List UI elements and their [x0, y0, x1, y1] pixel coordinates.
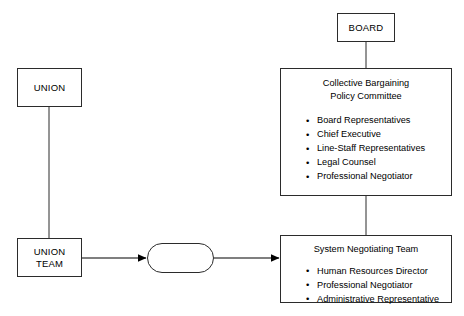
negotiating-team-member-list: Human Resources Director Professional Ne…: [285, 265, 447, 307]
diagram-canvas: BOARD UNION UNION TEAM Collective Bargai…: [0, 0, 464, 316]
policy-committee-member-list: Board Representatives Chief Executive Li…: [285, 114, 447, 184]
node-union-team-label-line1: UNION: [34, 246, 66, 258]
node-policy-committee-title-line1: Collective Bargaining: [285, 77, 447, 90]
list-item: Professional Negotiator: [306, 279, 447, 293]
node-negotiating-team[interactable]: System Negotiating Team Human Resources …: [280, 235, 452, 303]
list-item: Human Resources Director: [306, 265, 447, 279]
node-board-label: BOARD: [349, 22, 384, 33]
list-item: Administrative Representative: [306, 293, 447, 307]
list-item: Line-Staff Representatives: [306, 142, 447, 156]
node-union-team[interactable]: UNION TEAM: [17, 238, 82, 277]
node-policy-committee-title-line2: Policy Committee: [285, 90, 447, 103]
list-item: Chief Executive: [306, 128, 447, 142]
list-item: Legal Counsel: [306, 156, 447, 170]
node-board[interactable]: BOARD: [337, 13, 395, 42]
list-item: Board Representatives: [306, 114, 447, 128]
node-negotiating-team-title: System Negotiating Team: [285, 243, 447, 256]
node-bargaining-table[interactable]: [147, 243, 214, 273]
node-union-team-label-line2: TEAM: [36, 258, 63, 270]
node-union[interactable]: UNION: [17, 68, 82, 107]
node-policy-committee[interactable]: Collective Bargaining Policy Committee B…: [280, 68, 452, 196]
node-union-label: UNION: [34, 82, 66, 93]
list-item: Professional Negotiator: [306, 170, 447, 184]
